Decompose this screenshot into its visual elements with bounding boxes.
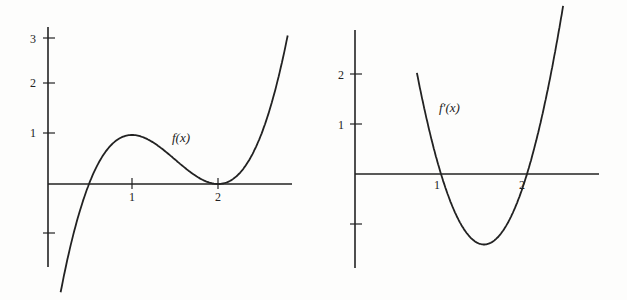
left-ytick-1: 1 (30, 126, 36, 140)
f-label: f(x) (172, 130, 190, 145)
left-ytick-2: 2 (30, 76, 36, 90)
right-ytick-1: 1 (338, 118, 344, 132)
right-plot: 2 1 1 2 f′(x) (338, 6, 599, 268)
left-xtick-1: 1 (129, 190, 135, 204)
figure: 3 2 1 1 2 f(x) 2 1 1 2 f′(x) (0, 0, 627, 300)
right-xtick-1: 1 (434, 178, 440, 192)
right-ytick-2: 2 (338, 68, 344, 82)
f-prime-label: f′(x) (439, 100, 460, 115)
right-ticks (350, 74, 362, 224)
left-ytick-3: 3 (30, 32, 36, 46)
f-prime-curve (417, 6, 563, 245)
f-curve (61, 36, 288, 293)
left-xtick-2: 2 (215, 190, 221, 204)
left-plot: 3 2 1 1 2 f(x) (30, 27, 292, 292)
